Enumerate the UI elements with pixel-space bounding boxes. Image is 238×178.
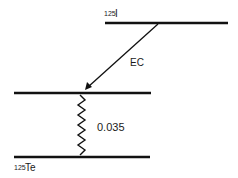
parent-symbol: I [115, 8, 118, 19]
ec-label: EC [130, 57, 144, 68]
arrowhead-icon [85, 82, 92, 90]
ec-transition-arrow [88, 24, 158, 87]
gamma-transition-wavy-line [78, 95, 85, 155]
decay-scheme-diagram: 125 I EC 0.035 125 Te [0, 0, 238, 178]
gamma-energy-label: 0.035 [97, 121, 125, 133]
daughter-symbol: Te [25, 162, 36, 173]
